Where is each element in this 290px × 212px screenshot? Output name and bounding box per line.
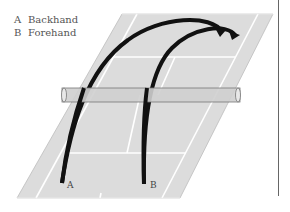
shot-label-a: A (67, 180, 74, 190)
shot-label-b: B (150, 180, 157, 190)
net-left-end (62, 88, 67, 102)
net-right-end (236, 88, 241, 102)
net (62, 88, 240, 102)
legend-item-backhand: A Backhand (14, 13, 78, 26)
legend-label: Forehand (28, 26, 76, 39)
frame-divider (278, 0, 279, 196)
legend-item-forehand: B Forehand (14, 26, 78, 39)
tennis-court-diagram: A Backhand B Forehand A B (0, 0, 290, 212)
legend: A Backhand B Forehand (14, 13, 78, 39)
legend-key: B (14, 26, 28, 39)
legend-label: Backhand (28, 13, 78, 26)
near-center-mark (100, 193, 101, 198)
legend-key: A (14, 13, 28, 26)
